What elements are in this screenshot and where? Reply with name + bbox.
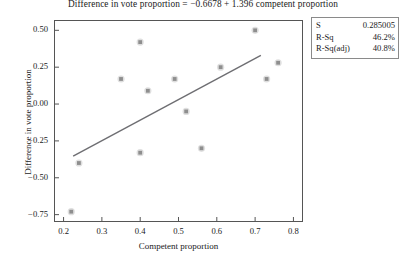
- data-point: [263, 75, 270, 82]
- x-tick-label: 0.8: [278, 227, 308, 236]
- data-point: [198, 145, 205, 152]
- x-tick-label: 0.6: [202, 227, 232, 236]
- data-point: [137, 39, 144, 46]
- data-point: [217, 64, 224, 71]
- data-point: [144, 87, 151, 94]
- data-point: [275, 59, 282, 66]
- x-tick-label: 0.2: [49, 227, 79, 236]
- data-point: [68, 208, 75, 215]
- x-tick-label: 0.4: [125, 227, 155, 236]
- plot-graphics-layer: [0, 0, 406, 256]
- x-tick-label: 0.3: [87, 227, 117, 236]
- data-point: [117, 75, 124, 82]
- y-axis-title: Difference in vote proportion: [23, 32, 33, 212]
- data-point: [183, 108, 190, 115]
- data-point: [137, 149, 144, 156]
- axis-tick-marks: [54, 30, 293, 222]
- data-point: [171, 75, 178, 82]
- x-tick-label: 0.5: [164, 227, 194, 236]
- x-tick-label: 0.7: [240, 227, 270, 236]
- x-axis-title: Competent proportion: [54, 241, 303, 251]
- regression-fit-line: [73, 55, 261, 156]
- data-point: [75, 159, 82, 166]
- data-point-markers: [68, 27, 282, 216]
- data-point: [252, 27, 259, 34]
- regression-scatter-chart: Difference in vote proportion = −0.6678 …: [0, 0, 406, 256]
